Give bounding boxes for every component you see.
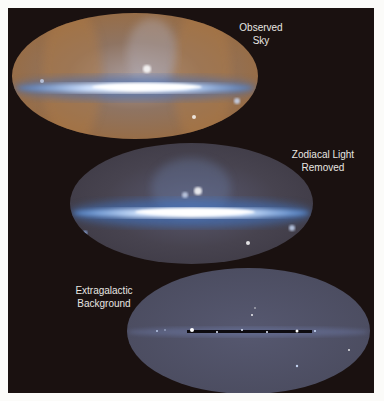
extragalactic-background-map: [127, 268, 370, 393]
extragalactic-background-label: Extragalactic Background: [75, 284, 132, 310]
label-line: Observed: [239, 21, 282, 34]
label-line: Extragalactic: [75, 284, 132, 297]
figure-panel: Observed Sky: [8, 8, 374, 393]
observed-sky-map: [12, 13, 258, 139]
label-line: Zodiacal Light: [292, 148, 354, 161]
label-line: Sky: [239, 34, 282, 47]
label-line: Removed: [292, 161, 354, 174]
zodiacal-removed-map: [70, 143, 313, 264]
label-line: Background: [75, 297, 132, 310]
observed-sky-label: Observed Sky: [239, 21, 282, 47]
zodiacal-removed-label: Zodiacal Light Removed: [292, 148, 354, 174]
